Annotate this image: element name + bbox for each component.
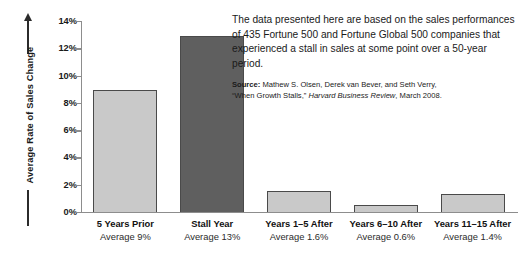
- annotation-source: Source: Mathew S. Olsen, Derek van Bever…: [232, 80, 520, 102]
- category-label: Stall YearAverage 13%: [169, 218, 256, 244]
- y-axis-rule: [27, 190, 29, 226]
- y-tick-label: 10%: [43, 71, 77, 81]
- category-label: Years 1–5 AfterAverage 1.6%: [256, 218, 343, 244]
- y-tick-mark: [75, 48, 82, 49]
- source-journal: Harvard Business Review: [308, 91, 395, 100]
- category-label: 5 Years PriorAverage 9%: [82, 218, 169, 244]
- y-tick-mark: [75, 185, 82, 186]
- x-axis-category-labels: 5 Years PriorAverage 9%Stall YearAverage…: [82, 218, 518, 258]
- category-name: Years 1–5 After: [256, 218, 343, 230]
- y-tick-mark: [75, 21, 82, 22]
- category-name: Years 6–10 After: [342, 218, 429, 230]
- source-authors: Mathew S. Olsen, Derek van Bever, and Se…: [262, 80, 436, 89]
- y-axis-title: Average Rate of Sales Change: [25, 25, 35, 205]
- y-tick-label: 2%: [43, 180, 77, 190]
- y-tick-label: 8%: [43, 98, 77, 108]
- y-tick-label: 12%: [43, 43, 77, 53]
- category-average: Average 13%: [169, 231, 256, 243]
- y-axis-tick-labels: 0%2%4%6%8%10%12%14%: [43, 0, 77, 262]
- y-tick-mark: [75, 103, 82, 104]
- y-tick-mark: [75, 212, 82, 213]
- bar: [267, 191, 331, 213]
- y-tick-label: 4%: [43, 152, 77, 162]
- bar: [441, 194, 505, 213]
- category-name: Stall Year: [169, 218, 256, 230]
- annotation-body: The data presented here are based on the…: [232, 13, 520, 71]
- y-tick-label: 0%: [43, 207, 77, 217]
- y-tick-label: 6%: [43, 125, 77, 135]
- y-tick-mark: [75, 157, 82, 158]
- category-name: 5 Years Prior: [82, 218, 169, 230]
- y-axis-title-group: Average Rate of Sales Change: [16, 14, 42, 226]
- bar: [93, 90, 157, 213]
- annotation-block: The data presented here are based on the…: [232, 13, 520, 102]
- bar-chart-figure: Average Rate of Sales Change 0%2%4%6%8%1…: [0, 0, 525, 262]
- source-title: “When Growth Stalls,”: [232, 91, 306, 100]
- category-label: Years 6–10 AfterAverage 0.6%: [342, 218, 429, 244]
- category-label: Years 11–15 AfterAverage 1.4%: [429, 218, 516, 244]
- category-average: Average 0.6%: [342, 231, 429, 243]
- category-name: Years 11–15 After: [429, 218, 516, 230]
- y-tick-mark: [75, 76, 82, 77]
- category-average: Average 1.6%: [256, 231, 343, 243]
- category-average: Average 1.4%: [429, 231, 516, 243]
- source-label: Source:: [232, 80, 260, 89]
- category-average: Average 9%: [82, 231, 169, 243]
- y-tick-mark: [75, 130, 82, 131]
- x-axis-baseline: [82, 212, 518, 213]
- y-tick-label: 14%: [43, 16, 77, 26]
- source-date: , March 2008.: [395, 91, 441, 100]
